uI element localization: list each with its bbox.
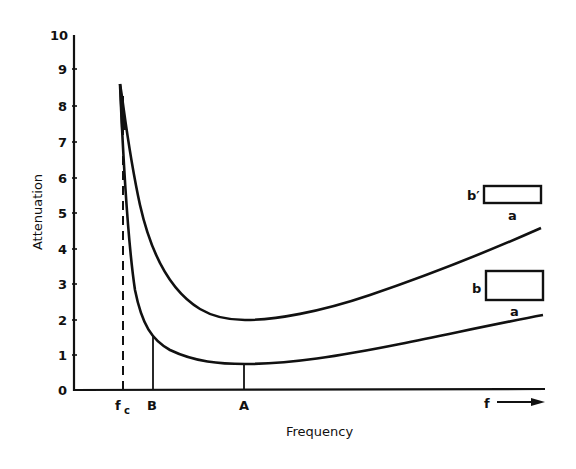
y-tick-1: 1 xyxy=(58,348,67,363)
a-bottom-label: a xyxy=(510,304,519,319)
y-tick-7: 7 xyxy=(58,135,67,150)
f-arrow-label: f xyxy=(484,396,490,411)
fc-label: f xyxy=(115,398,121,413)
a-marker-label: A xyxy=(239,398,249,413)
a-top-label: a xyxy=(508,208,517,223)
y-axis-label: Attenuation xyxy=(30,174,45,250)
b-marker-label: B xyxy=(147,398,157,413)
y-tick-3: 3 xyxy=(58,277,67,292)
y-tick-4: 4 xyxy=(58,242,67,257)
b-label: b xyxy=(472,281,481,296)
y-tick-9: 9 xyxy=(58,62,67,77)
y-tick-labels: 0 1 2 3 4 5 6 7 8 9 10 xyxy=(50,28,68,398)
b-prime-label: b′ xyxy=(467,188,480,203)
x-axis-label: Frequency xyxy=(286,424,353,439)
attenuation-chart: 0 1 2 3 4 5 6 7 8 9 10 Attenuation f c B… xyxy=(0,0,576,469)
waveguide-b-prime-shape xyxy=(484,186,541,203)
y-tick-5: 5 xyxy=(58,206,67,221)
waveguide-b-shape xyxy=(486,271,543,300)
y-tick-2: 2 xyxy=(58,313,67,328)
f-arrow-head-icon xyxy=(531,398,545,406)
peak-overlap xyxy=(119,84,126,130)
x-axis xyxy=(73,389,545,390)
curve-b xyxy=(120,84,543,364)
fc-subscript: c xyxy=(124,405,130,416)
y-tick-0: 0 xyxy=(58,383,67,398)
y-tick-6: 6 xyxy=(58,171,67,186)
y-tick-8: 8 xyxy=(58,99,67,114)
y-tick-10: 10 xyxy=(50,28,68,43)
